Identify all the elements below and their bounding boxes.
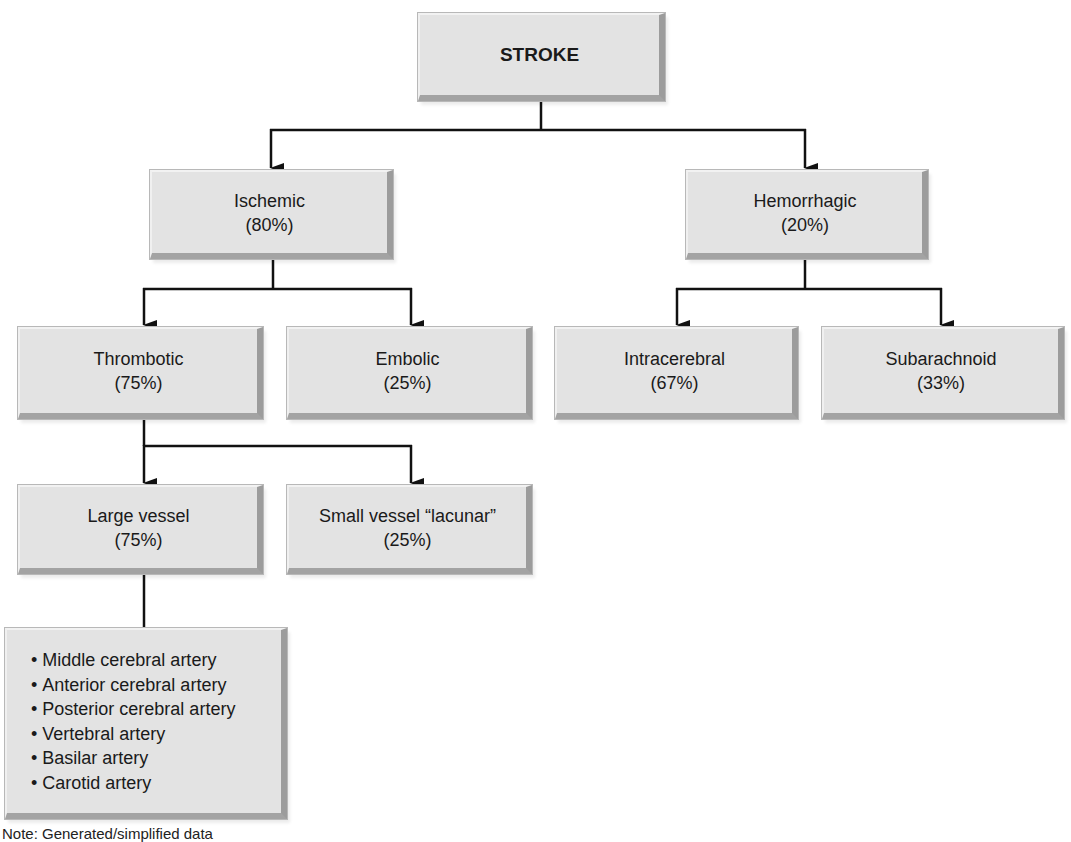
node-ischemic-title: Ischemic bbox=[234, 189, 305, 213]
list-item: Carotid artery bbox=[31, 771, 235, 796]
node-stroke-title: STROKE bbox=[500, 43, 579, 67]
list-item: Vertebral artery bbox=[31, 722, 235, 747]
list-item: Middle cerebral artery bbox=[31, 648, 235, 673]
node-intracerebral: Intracerebral (67%) bbox=[555, 327, 798, 419]
node-large-vessel: Large vessel (75%) bbox=[18, 485, 263, 574]
node-large-vessel-title: Large vessel bbox=[87, 504, 189, 528]
node-small-vessel: Small vessel “lacunar” (25%) bbox=[287, 485, 532, 574]
node-thrombotic-title: Thrombotic bbox=[93, 347, 183, 371]
node-large-vessel-percent: (75%) bbox=[114, 528, 162, 552]
node-ischemic: Ischemic (80%) bbox=[150, 170, 393, 259]
node-hemorrhagic-title: Hemorrhagic bbox=[753, 189, 856, 213]
node-subarachnoid-percent: (33%) bbox=[917, 371, 965, 395]
list-item: Posterior cerebral artery bbox=[31, 697, 235, 722]
node-subarachnoid-title: Subarachnoid bbox=[885, 347, 996, 371]
list-item: Basilar artery bbox=[31, 746, 235, 771]
footnote: Note: Generated/simplified data bbox=[2, 825, 213, 842]
node-hemorrhagic-percent: (20%) bbox=[781, 213, 829, 237]
node-embolic-title: Embolic bbox=[375, 347, 439, 371]
node-stroke: STROKE bbox=[418, 13, 665, 101]
node-thrombotic: Thrombotic (75%) bbox=[18, 327, 263, 419]
node-intracerebral-percent: (67%) bbox=[650, 371, 698, 395]
node-small-vessel-title: Small vessel “lacunar” bbox=[319, 504, 496, 528]
list-item: Anterior cerebral artery bbox=[31, 673, 235, 698]
node-intracerebral-title: Intracerebral bbox=[624, 347, 725, 371]
node-subarachnoid: Subarachnoid (33%) bbox=[822, 327, 1064, 419]
artery-list: Middle cerebral artery Anterior cerebral… bbox=[31, 648, 235, 795]
node-thrombotic-percent: (75%) bbox=[114, 371, 162, 395]
node-small-vessel-percent: (25%) bbox=[383, 528, 431, 552]
node-embolic: Embolic (25%) bbox=[287, 327, 532, 419]
node-embolic-percent: (25%) bbox=[383, 371, 431, 395]
node-ischemic-percent: (80%) bbox=[245, 213, 293, 237]
node-hemorrhagic: Hemorrhagic (20%) bbox=[686, 170, 928, 259]
node-artery-list: Middle cerebral artery Anterior cerebral… bbox=[5, 628, 287, 819]
